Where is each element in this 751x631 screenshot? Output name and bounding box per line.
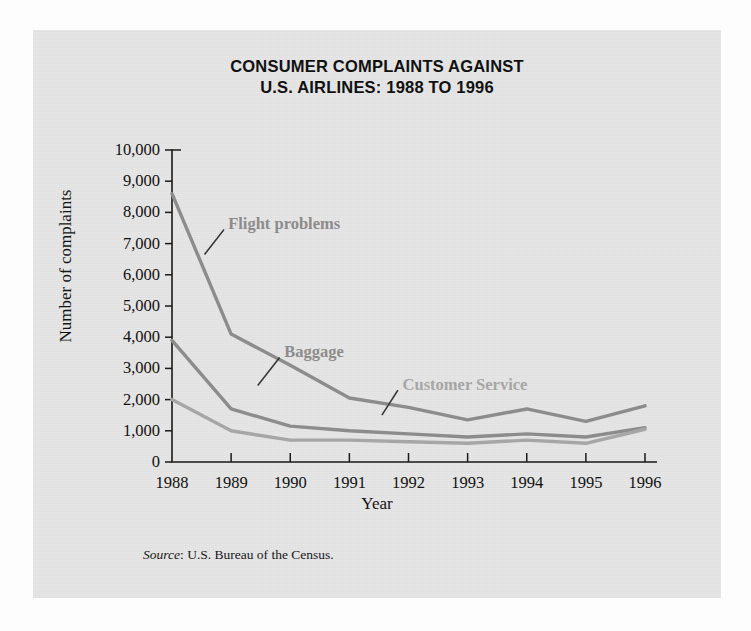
y-axis-tick-label: 3,000 bbox=[80, 358, 160, 378]
y-axis-title: Number of complaints bbox=[56, 171, 76, 361]
chart-title-line-2: U.S. AIRLINES: 1988 TO 1996 bbox=[33, 77, 721, 98]
y-axis-tick-label: 0 bbox=[80, 452, 160, 472]
page-title: CONSUMER COMPLAINTS AGAINST U.S. AIRLINE… bbox=[33, 56, 721, 98]
chart-panel: CONSUMER COMPLAINTS AGAINST U.S. AIRLINE… bbox=[33, 30, 721, 598]
series-label-customer-service: Customer Service bbox=[403, 375, 528, 395]
chart-title-line-1: CONSUMER COMPLAINTS AGAINST bbox=[33, 56, 721, 77]
leader-line-baggage bbox=[258, 357, 280, 385]
y-axis-tick-label: 2,000 bbox=[80, 390, 160, 410]
series-label-flight-problems: Flight problems bbox=[228, 214, 340, 234]
y-axis-tick-label: 4,000 bbox=[80, 327, 160, 347]
source-note: Source: U.S. Bureau of the Census. bbox=[143, 547, 334, 563]
source-word: Source bbox=[143, 547, 180, 562]
y-axis-tick-label: 5,000 bbox=[80, 296, 160, 316]
y-axis-tick-label: 10,000 bbox=[80, 140, 160, 160]
chart-page: CONSUMER COMPLAINTS AGAINST U.S. AIRLINE… bbox=[0, 0, 751, 631]
series-label-baggage: Baggage bbox=[284, 342, 344, 362]
x-axis-title: Year bbox=[33, 494, 721, 514]
y-axis-tick-label: 7,000 bbox=[80, 234, 160, 254]
y-axis-tick-label: 8,000 bbox=[80, 202, 160, 222]
leader-line-flight-problems bbox=[205, 230, 225, 255]
y-axis-tick-label: 6,000 bbox=[80, 265, 160, 285]
y-axis-tick-label: 1,000 bbox=[80, 421, 160, 441]
source-text: : U.S. Bureau of the Census. bbox=[180, 547, 334, 562]
x-axis-tick-label: 1996 bbox=[610, 473, 680, 493]
y-axis-tick-label: 9,000 bbox=[80, 171, 160, 191]
axis-spine bbox=[172, 150, 657, 463]
